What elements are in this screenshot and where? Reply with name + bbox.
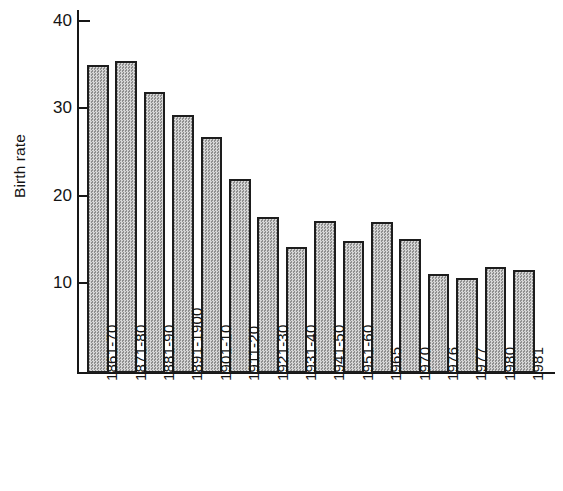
x-tick-label: 1931-40 [303, 325, 318, 381]
x-tick-label: 1891-1900 [189, 307, 204, 381]
x-tick-label: 1981 [530, 347, 545, 381]
x-tick-label: 1871-80 [133, 325, 148, 381]
plot-area [77, 10, 555, 373]
x-tick-label: 1921-30 [275, 325, 290, 381]
y-tick-label: 10 [30, 274, 72, 291]
x-tick-label: 1941-50 [331, 325, 346, 381]
x-tick-label: 1951-60 [360, 325, 375, 381]
x-tick-label: 1901-10 [218, 325, 233, 381]
x-tick-label: 1861-70 [104, 325, 119, 381]
x-tick-label: 1965 [388, 347, 403, 381]
y-tick-label: 30 [30, 99, 72, 116]
x-tick-label: 1881-90 [161, 325, 176, 381]
x-tick-label: 1980 [502, 347, 517, 381]
x-tick-label: 1911-20 [246, 326, 261, 381]
x-tick-label: 1977 [473, 347, 488, 381]
birth-rate-bar-chart: Birth rate 10203040 1861-701871-801881-9… [0, 0, 563, 491]
y-tick-label: 20 [30, 187, 72, 204]
y-tick-label: 40 [30, 12, 72, 29]
y-axis-title: Birth rate [11, 106, 29, 226]
x-tick-label: 1970 [417, 347, 432, 381]
x-tick-label: 1976 [445, 347, 460, 381]
